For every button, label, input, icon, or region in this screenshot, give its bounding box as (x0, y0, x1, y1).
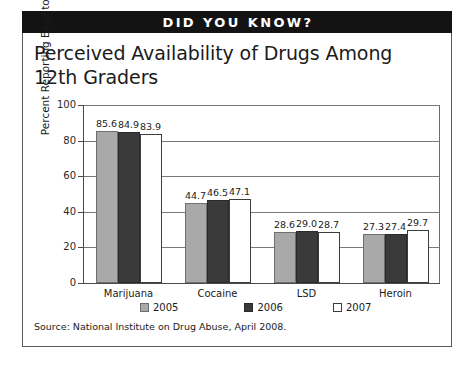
y-axis-tick (78, 212, 84, 213)
legend-label: 2005 (153, 302, 178, 313)
plot-area (84, 105, 440, 283)
x-axis-category-label: Cocaine (173, 288, 262, 299)
x-axis-line (83, 283, 440, 284)
legend-label: 2007 (346, 302, 371, 313)
chart-legend: 200520062007 (140, 302, 371, 313)
banner: DID YOU KNOW? (22, 11, 452, 33)
bar-marijuana-2007 (140, 134, 162, 283)
source-note: Source: National Institute on Drug Abuse… (34, 321, 286, 332)
bar-value-label: 83.9 (136, 121, 166, 132)
y-axis-tick (78, 176, 84, 177)
legend-swatch-2005 (140, 303, 149, 312)
bar-cocaine-2005 (185, 203, 207, 283)
bar-marijuana-2005 (96, 131, 118, 283)
did-you-know-infographic: DID YOU KNOW? Perceived Availability of … (0, 0, 475, 366)
bar-value-label: 28.7 (314, 219, 344, 230)
bar-cocaine-2006 (207, 200, 229, 283)
bar-value-label: 29.7 (403, 217, 433, 228)
bar-marijuana-2006 (118, 132, 140, 283)
legend-item-2007: 2007 (333, 302, 371, 313)
y-axis-tick (78, 247, 84, 248)
legend-item-2005: 2005 (140, 302, 178, 313)
y-axis-tick-label: 100 (50, 99, 76, 110)
legend-swatch-2006 (244, 303, 253, 312)
page-title: Perceived Availability of Drugs Among 12… (34, 41, 424, 89)
legend-item-2006: 2006 (244, 302, 282, 313)
y-axis-tick-label: 20 (50, 241, 76, 252)
y-axis-tick (78, 283, 84, 284)
y-axis-tick-label: 80 (50, 135, 76, 146)
bar-heroin-2006 (385, 234, 407, 283)
y-axis-tick-label: 40 (50, 206, 76, 217)
y-axis-tick-label: 60 (50, 170, 76, 181)
bar-lsd-2005 (274, 232, 296, 283)
bar-lsd-2007 (318, 232, 340, 283)
gridline (84, 105, 440, 106)
y-axis-tick (78, 141, 84, 142)
x-axis-category-label: LSD (262, 288, 351, 299)
bar-heroin-2007 (407, 230, 429, 283)
bar-cocaine-2007 (229, 199, 251, 283)
banner-title: DID YOU KNOW? (160, 16, 313, 29)
bar-value-label: 47.1 (225, 186, 255, 197)
x-axis-category-label: Marijuana (84, 288, 173, 299)
plot-right-border (439, 105, 440, 283)
x-axis-category-label: Heroin (351, 288, 440, 299)
bar-heroin-2005 (363, 234, 385, 283)
y-axis-tick-label: 0 (50, 277, 76, 288)
y-axis-tick (78, 105, 84, 106)
legend-swatch-2007 (333, 303, 342, 312)
bar-lsd-2006 (296, 231, 318, 283)
legend-label: 2006 (257, 302, 282, 313)
y-axis-title: Percent Reporting Easy to Obtain (39, 0, 51, 146)
